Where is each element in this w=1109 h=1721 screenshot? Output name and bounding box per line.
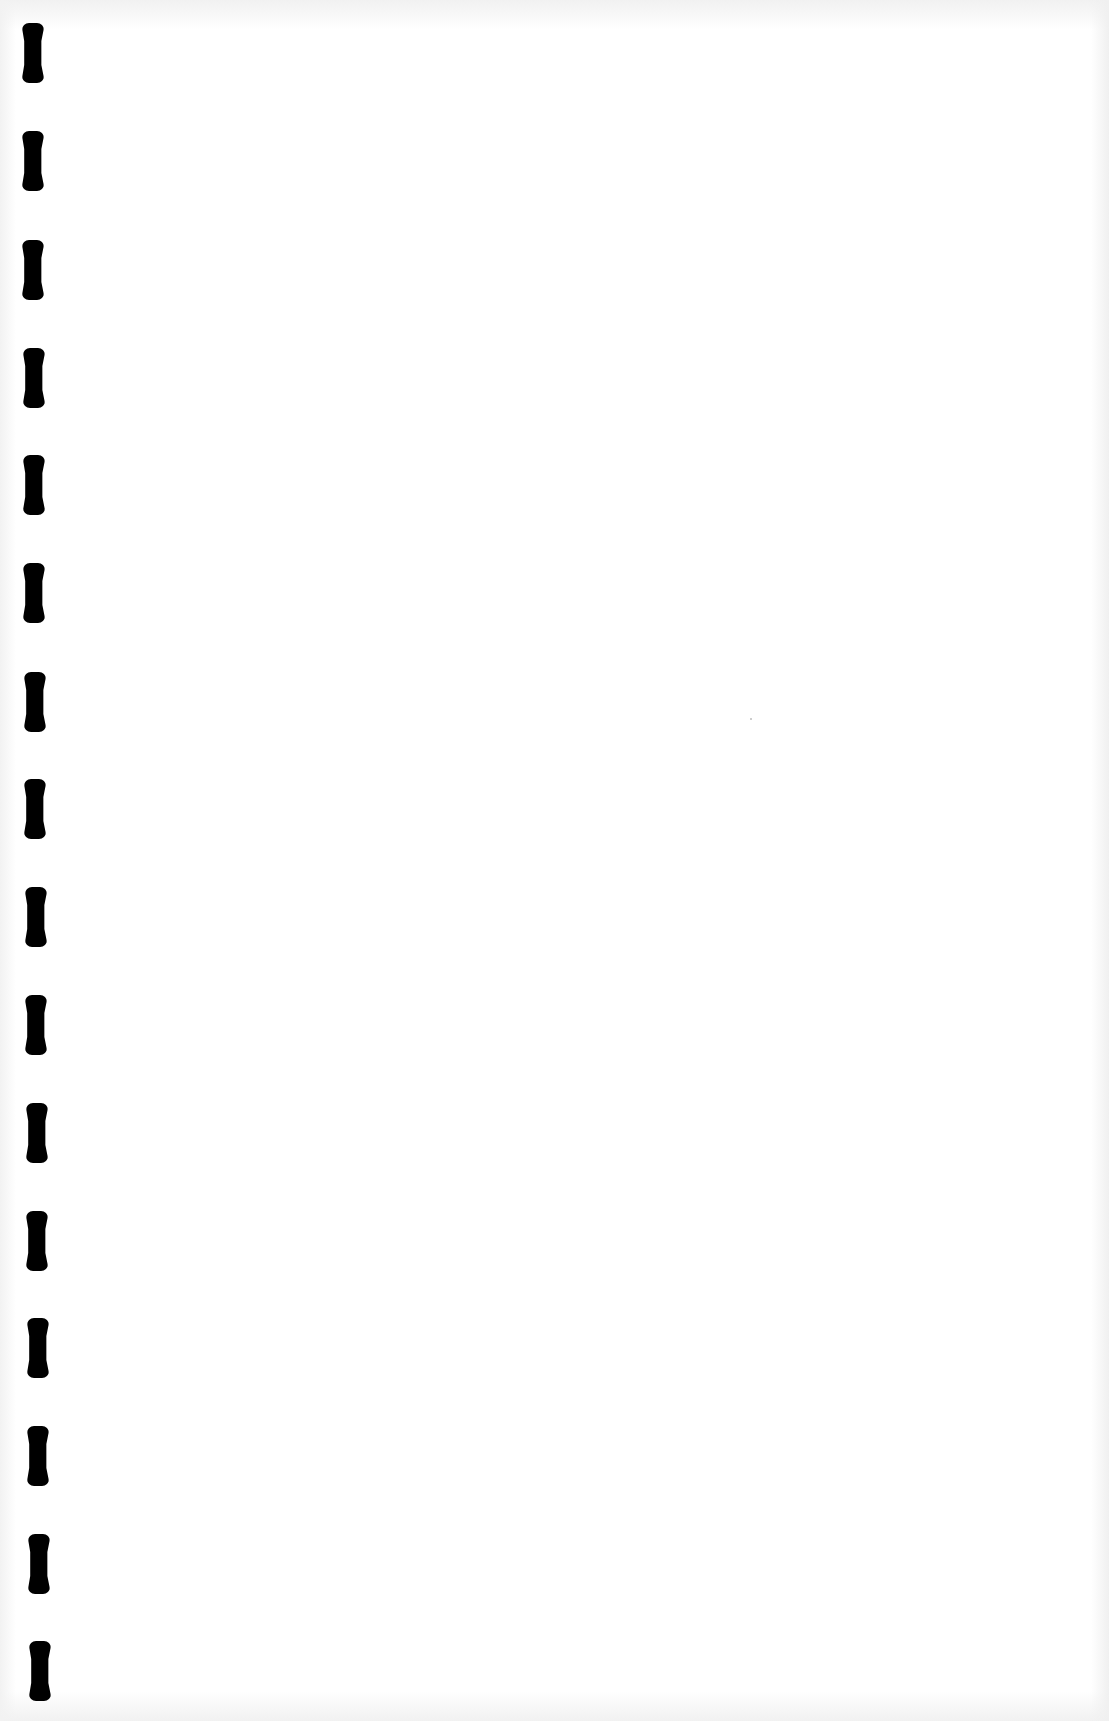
binding-hole: [29, 1641, 51, 1701]
binding-hole: [22, 23, 44, 83]
binding-hole: [23, 563, 45, 623]
binding-hole: [26, 1103, 48, 1163]
binding-hole: [23, 348, 45, 408]
binding-hole: [24, 672, 46, 732]
binding-hole: [26, 1211, 48, 1271]
scan-shadow-top: [0, 0, 1109, 30]
binding-hole: [22, 131, 44, 191]
scan-shadow-bottom: [0, 1691, 1109, 1721]
scanned-page: [0, 0, 1109, 1721]
binding-hole: [23, 455, 45, 515]
binding-hole: [22, 240, 44, 300]
binding-hole: [27, 1318, 49, 1378]
binding-hole: [25, 995, 47, 1055]
binding-hole: [25, 887, 47, 947]
binding-hole: [28, 1534, 50, 1594]
scan-speck: [750, 718, 752, 720]
binding-hole: [27, 1426, 49, 1486]
scan-shadow-right: [1091, 0, 1109, 1721]
binding-hole: [24, 779, 46, 839]
scan-shadow-left: [0, 0, 16, 1721]
